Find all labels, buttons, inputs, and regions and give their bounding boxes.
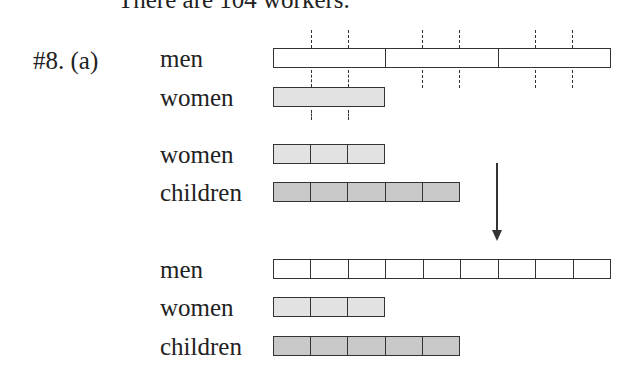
men-unit xyxy=(386,260,423,278)
women-bar-bottom xyxy=(273,297,385,317)
men-unit xyxy=(386,49,498,67)
partition-mark xyxy=(311,30,312,48)
children-unit xyxy=(311,183,348,201)
men-unit xyxy=(461,260,498,278)
partition-mark xyxy=(348,110,349,120)
children-unit xyxy=(274,337,311,355)
children-unit xyxy=(423,183,459,201)
children-bar-mid xyxy=(273,182,460,202)
partition-mark xyxy=(535,70,536,88)
partition-mark xyxy=(311,110,312,120)
men-unit xyxy=(536,260,573,278)
label-women-mid: women xyxy=(160,142,234,167)
label-children-mid: children xyxy=(160,180,242,205)
women-unit xyxy=(348,298,384,316)
partition-mark xyxy=(572,70,573,88)
partition-mark xyxy=(348,30,349,48)
women-bar-top xyxy=(273,87,385,107)
children-unit xyxy=(423,337,459,355)
children-unit xyxy=(386,183,423,201)
problem-label: #8. (a) xyxy=(33,48,98,73)
partition-mark xyxy=(459,30,460,48)
partition-mark xyxy=(535,30,536,48)
children-unit xyxy=(348,183,385,201)
partition-mark xyxy=(348,70,349,87)
partition-mark xyxy=(422,70,423,88)
women-unit xyxy=(274,145,311,163)
men-unit xyxy=(274,49,386,67)
partition-mark xyxy=(422,30,423,48)
men-unit xyxy=(424,260,461,278)
partition-mark xyxy=(572,30,573,48)
label-men-bottom: men xyxy=(160,257,203,282)
women-unit xyxy=(311,145,348,163)
children-unit xyxy=(311,337,348,355)
women-unit xyxy=(274,88,384,106)
women-unit xyxy=(348,145,384,163)
label-women-bottom: women xyxy=(160,295,234,320)
label-men-top: men xyxy=(160,46,203,71)
men-unit xyxy=(499,49,610,67)
men-unit xyxy=(311,260,348,278)
men-bar-bottom xyxy=(273,259,611,279)
header-text: There are 104 workers. xyxy=(118,0,350,12)
partition-mark xyxy=(459,70,460,88)
children-unit xyxy=(348,337,385,355)
label-women-top: women xyxy=(160,85,234,110)
men-unit xyxy=(499,260,536,278)
men-bar-top xyxy=(273,48,611,68)
men-unit xyxy=(574,260,610,278)
women-bar-mid xyxy=(273,144,385,164)
women-unit xyxy=(274,298,311,316)
men-unit xyxy=(349,260,386,278)
down-arrow-icon xyxy=(496,163,498,231)
arrow-head-icon xyxy=(492,230,502,241)
children-unit xyxy=(274,183,311,201)
children-unit xyxy=(386,337,423,355)
label-children-bottom: children xyxy=(160,334,242,359)
women-unit xyxy=(311,298,348,316)
children-bar-bottom xyxy=(273,336,460,356)
partition-mark xyxy=(311,70,312,87)
men-unit xyxy=(274,260,311,278)
